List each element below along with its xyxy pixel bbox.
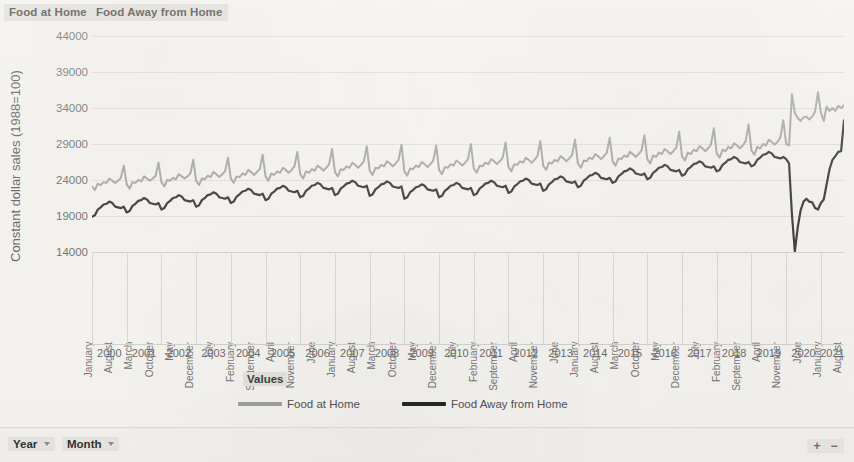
chevron-down-icon[interactable] <box>44 442 50 446</box>
year-separator <box>751 252 752 344</box>
x-axis-year-tick: 2003 <box>201 347 225 359</box>
year-separator <box>231 252 232 344</box>
x-axis-year-tick: 2009 <box>409 347 433 359</box>
year-separator <box>161 252 162 344</box>
y-axis-tick: 44000 <box>56 30 88 42</box>
zoom-controls: + − <box>807 439 844 453</box>
year-separator <box>196 252 197 344</box>
x-axis-year-tick: 2001 <box>132 347 156 359</box>
x-axis-year-tick: 2012 <box>514 347 538 359</box>
y-axis-tick: 14000 <box>56 246 88 258</box>
zoom-out-button[interactable]: − <box>827 440 841 452</box>
line-chart: Constant dollar sales (1988=100) 1400019… <box>0 26 854 366</box>
y-axis-tick: 39000 <box>56 66 88 78</box>
x-axis-year-tick: 2020 <box>791 347 815 359</box>
month-band-bottom-rule <box>92 344 844 345</box>
year-separator <box>717 252 718 344</box>
values-label: Values <box>243 372 287 386</box>
x-axis-year-tick: 2006 <box>305 347 329 359</box>
x-axis-year-labels: 2000200120022003200420052006200720082009… <box>92 346 844 364</box>
year-separator <box>682 252 683 344</box>
year-separator <box>439 252 440 344</box>
series-line-food-at-home <box>92 92 844 190</box>
year-separator <box>127 252 128 344</box>
x-axis-year-tick: 2014 <box>583 347 607 359</box>
x-axis-year-tick: 2004 <box>236 347 260 359</box>
year-separator <box>266 252 267 344</box>
year-separator <box>474 252 475 344</box>
x-axis-year-tick: 2021 <box>820 347 844 359</box>
legend-swatch-food-at-home <box>238 402 282 406</box>
x-axis-year-tick: 2017 <box>687 347 711 359</box>
y-axis-tick: 19000 <box>56 210 88 222</box>
legend-item-food-at-home[interactable]: Food at Home <box>238 398 360 410</box>
year-separator <box>92 252 93 344</box>
x-axis-year-tick: 2002 <box>167 347 191 359</box>
x-axis-month-labels: JanuaryAugustMarchOctoberMayDecemberJuly… <box>92 252 844 344</box>
x-axis-year-tick: 2013 <box>548 347 572 359</box>
x-axis-year-tick: 2005 <box>271 347 295 359</box>
year-separator <box>647 252 648 344</box>
y-axis-title: Constant dollar sales (1988=100) <box>6 60 24 272</box>
series-header-food-away-from-home: Food Away from Home <box>96 6 223 18</box>
y-axis-tick: 29000 <box>56 138 88 150</box>
year-separator <box>335 252 336 344</box>
y-axis-tick: 34000 <box>56 102 88 114</box>
field-chip-month-label: Month <box>67 438 101 450</box>
x-axis-year-tick: 2015 <box>618 347 642 359</box>
x-axis-year-tick: 2018 <box>722 347 746 359</box>
year-separator <box>821 252 822 344</box>
field-chip-year-label: Year <box>13 438 37 450</box>
x-axis-year-tick: 2008 <box>375 347 399 359</box>
year-separator <box>578 252 579 344</box>
x-axis-year-tick: 2016 <box>652 347 676 359</box>
x-axis-year-tick: 2019 <box>757 347 781 359</box>
year-separator <box>786 252 787 344</box>
x-axis-year-tick: 2007 <box>340 347 364 359</box>
year-separator <box>613 252 614 344</box>
legend-item-food-away-from-home[interactable]: Food Away from Home <box>402 398 568 410</box>
x-axis-year-tick: 2010 <box>444 347 468 359</box>
y-axis-tick-labels: 14000190002400029000340003900044000 <box>26 36 88 252</box>
year-separator <box>370 252 371 344</box>
legend-label-food-at-home: Food at Home <box>287 398 360 410</box>
legend-label-food-away-from-home: Food Away from Home <box>451 398 568 410</box>
plot-area <box>92 36 844 252</box>
series-paths <box>92 36 844 252</box>
series-line-food-away-from-home <box>92 120 844 251</box>
legend-swatch-food-away-from-home <box>402 402 446 406</box>
year-separator <box>543 252 544 344</box>
chevron-down-icon[interactable] <box>108 442 114 446</box>
chart-legend: Food at Home Food Away from Home <box>238 398 568 410</box>
year-separator <box>508 252 509 344</box>
field-bar: Year Month + − <box>0 427 854 462</box>
year-separator <box>404 252 405 344</box>
x-axis-year-tick: 2011 <box>479 347 503 359</box>
y-axis-tick: 24000 <box>56 174 88 186</box>
zoom-in-button[interactable]: + <box>810 440 824 452</box>
series-header: Food at Home Food Away from Home <box>4 4 228 21</box>
field-chip-year[interactable]: Year <box>8 437 55 451</box>
year-separator <box>300 252 301 344</box>
x-axis-year-tick: 2000 <box>97 347 121 359</box>
series-header-food-at-home: Food at Home <box>9 6 87 18</box>
field-chip-month[interactable]: Month <box>62 437 119 451</box>
